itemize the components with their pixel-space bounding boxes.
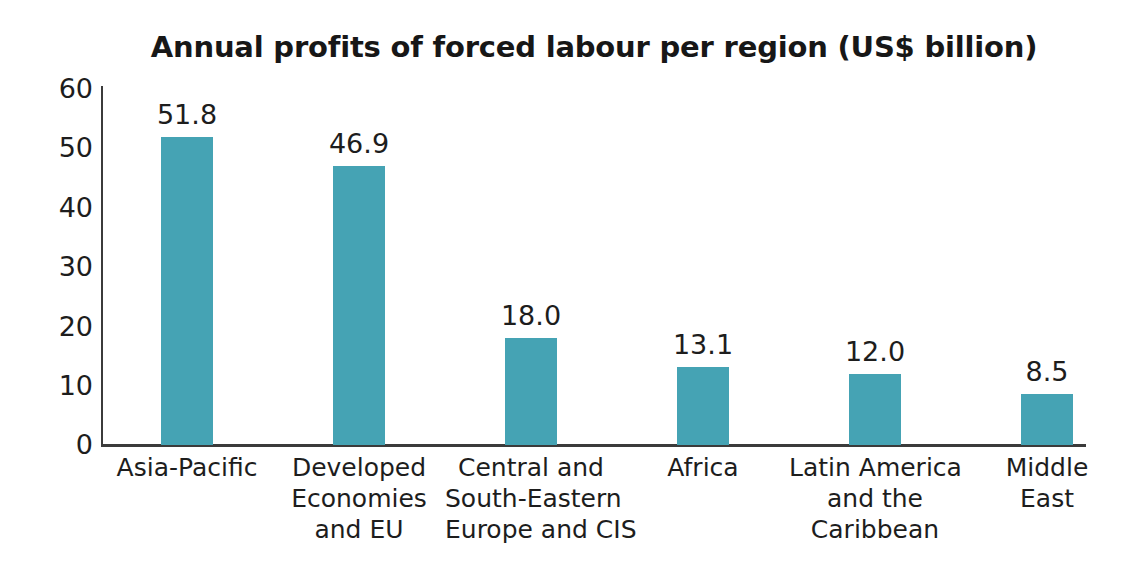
bar-value-latin-america-and-the-caribbean: 12.0 xyxy=(845,338,905,365)
category-label-central-and-south-eastern-europe-and-cis: Central and South-Eastern Europe and CIS xyxy=(445,452,617,545)
category-label-middle-east: Middle East xyxy=(961,452,1133,514)
bar-value-central-and-south-eastern-europe-and-cis: 18.0 xyxy=(501,302,561,329)
category-label-line: Central and xyxy=(445,452,617,483)
bar-value-asia-pacific: 51.8 xyxy=(157,101,217,128)
category-label-line: and EU xyxy=(273,514,445,545)
bar-group-asia-pacific: 51.8 xyxy=(101,88,273,445)
category-label-line: Europe and CIS xyxy=(445,514,617,545)
bar-group-latin-america-and-the-caribbean: 12.0 xyxy=(789,88,961,445)
bar-developed-economies-and-eu[interactable] xyxy=(333,166,385,445)
x-axis-category-labels: Asia-Pacific Developed Economies and EU … xyxy=(101,452,1085,562)
category-label-line: Developed xyxy=(273,452,445,483)
chart-title: Annual profits of forced labour per regi… xyxy=(0,30,1148,64)
y-tick-60: 60 xyxy=(8,73,93,104)
bar-latin-america-and-the-caribbean[interactable] xyxy=(849,374,901,445)
y-tick-40: 40 xyxy=(8,192,93,223)
y-tick-30: 30 xyxy=(8,251,93,282)
bar-value-middle-east: 8.5 xyxy=(1026,358,1069,385)
bar-group-africa: 13.1 xyxy=(617,88,789,445)
category-label-line: Latin America xyxy=(789,452,961,483)
category-label-line: and the xyxy=(789,483,961,514)
y-tick-10: 10 xyxy=(8,370,93,401)
y-tick-50: 50 xyxy=(8,132,93,163)
bar-group-central-and-south-eastern-europe-and-cis: 18.0 xyxy=(445,88,617,445)
category-label-line: Africa xyxy=(617,452,789,483)
category-label-line: South-Eastern xyxy=(445,483,617,514)
category-label-line: Economies xyxy=(273,483,445,514)
category-label-asia-pacific: Asia-Pacific xyxy=(101,452,273,483)
bar-middle-east[interactable] xyxy=(1021,394,1073,445)
y-axis-tick-labels: 60 50 40 30 20 10 0 xyxy=(8,0,93,562)
category-label-line: Asia-Pacific xyxy=(101,452,273,483)
category-label-line: Middle xyxy=(961,452,1133,483)
category-label-line: East xyxy=(961,483,1133,514)
category-label-latin-america-and-the-caribbean: Latin America and the Caribbean xyxy=(789,452,961,545)
plot-area: 51.8 46.9 18.0 13.1 12.0 8.5 xyxy=(101,88,1085,445)
category-label-line: Caribbean xyxy=(789,514,961,545)
bar-value-developed-economies-and-eu: 46.9 xyxy=(329,130,389,157)
bar-group-middle-east: 8.5 xyxy=(961,88,1133,445)
y-tick-20: 20 xyxy=(8,311,93,342)
category-label-africa: Africa xyxy=(617,452,789,483)
bar-asia-pacific[interactable] xyxy=(161,137,213,445)
bar-africa[interactable] xyxy=(677,367,729,445)
category-label-developed-economies-and-eu: Developed Economies and EU xyxy=(273,452,445,545)
chart-page: Annual profits of forced labour per regi… xyxy=(0,0,1148,562)
bar-central-and-south-eastern-europe-and-cis[interactable] xyxy=(505,338,557,445)
y-tick-0: 0 xyxy=(8,429,93,460)
bar-group-developed-economies-and-eu: 46.9 xyxy=(273,88,445,445)
bar-value-africa: 13.1 xyxy=(673,331,733,358)
